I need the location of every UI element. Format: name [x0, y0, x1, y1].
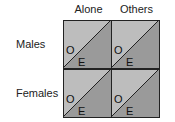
- expected-label: E: [78, 56, 85, 68]
- expected-label: E: [78, 105, 85, 117]
- expected-label: E: [126, 105, 133, 117]
- column-header-others: Others: [112, 3, 161, 15]
- observed-label: O: [114, 44, 123, 56]
- observed-label: O: [66, 44, 75, 56]
- cell-females-alone: O E: [63, 69, 111, 117]
- expected-label: E: [126, 56, 133, 68]
- row-header-females: Females: [16, 87, 58, 99]
- cell-females-others: O E: [111, 69, 159, 117]
- cell-males-alone: O E: [63, 20, 111, 68]
- cell-males-others: O E: [111, 20, 159, 68]
- column-header-alone: Alone: [64, 3, 113, 15]
- row-header-males: Males: [16, 38, 45, 50]
- observed-label: O: [114, 93, 123, 105]
- observed-label: O: [66, 93, 75, 105]
